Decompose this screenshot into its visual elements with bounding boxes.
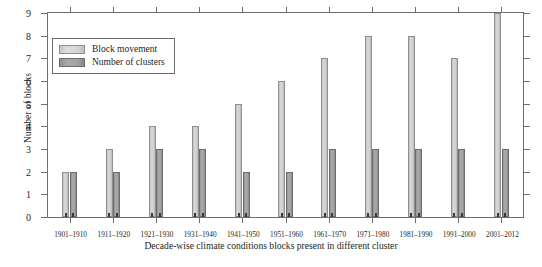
- bar: [286, 172, 293, 217]
- y-axis-tick-right: [523, 194, 530, 195]
- x-axis-tick: 1911–1920: [113, 217, 114, 223]
- bar-base-marker: [159, 213, 161, 217]
- bar: [502, 149, 509, 217]
- y-axis-tick-right: [523, 13, 530, 14]
- y-axis-tick-label: 8: [26, 32, 31, 42]
- x-axis-tick-top: [372, 7, 373, 13]
- bar-base-marker: [410, 213, 412, 217]
- y-axis-tick-right: [523, 172, 530, 173]
- bar-base-marker: [331, 213, 333, 217]
- bar: [321, 58, 328, 217]
- y-axis-tick-right: [523, 58, 530, 59]
- x-axis-tick-top: [199, 7, 200, 13]
- y-axis-tick-label: 3: [26, 145, 31, 155]
- bar-base-marker: [202, 213, 204, 217]
- y-axis-tick: 2: [41, 172, 48, 173]
- y-axis-tick: 3: [41, 149, 48, 150]
- y-axis-tick-label: 2: [26, 168, 31, 178]
- y-axis-tick-right: [523, 104, 530, 105]
- bar-base-marker: [238, 213, 240, 217]
- x-axis-tick-top: [70, 7, 71, 13]
- bar: [458, 149, 465, 217]
- x-axis-tick-label: 1911–1920: [97, 231, 130, 238]
- x-axis-tick-top: [501, 7, 502, 13]
- x-axis-tick-top: [458, 7, 459, 13]
- legend-swatch-block-movement: [59, 45, 85, 54]
- y-axis-tick-label: 6: [26, 77, 31, 87]
- x-axis-tick: 1961–1970: [329, 217, 330, 223]
- legend-item-number-of-clusters: Number of clusters: [59, 56, 165, 69]
- y-axis-tick-right: [523, 149, 530, 150]
- y-axis-tick: 4: [41, 126, 48, 127]
- x-axis-tick-label: 1931–1940: [184, 231, 217, 238]
- bar-base-marker: [245, 213, 247, 217]
- x-axis-tick-top: [286, 7, 287, 13]
- x-axis-tick-label: 1921–1930: [141, 231, 174, 238]
- bar: [494, 13, 501, 217]
- x-axis-tick-top: [415, 7, 416, 13]
- bar: [278, 81, 285, 217]
- legend-label-block-movement: Block movement: [92, 45, 157, 55]
- y-axis-tick: 5: [41, 104, 48, 105]
- x-axis-title: Decade-wise climate conditions blocks pr…: [0, 240, 542, 251]
- x-axis-tick-label: 1901–1910: [54, 231, 87, 238]
- legend-swatch-number-of-clusters: [59, 58, 85, 67]
- y-axis-tick: 0: [41, 217, 48, 218]
- y-axis-tick-right: [523, 126, 530, 127]
- y-axis-tick: 7: [41, 58, 48, 59]
- bar: [70, 172, 77, 217]
- x-axis-tick-top: [113, 7, 114, 13]
- bar-base-marker: [497, 213, 499, 217]
- bar: [106, 149, 113, 217]
- bar: [365, 36, 372, 217]
- bar-chart-figure: Number of blocks 01234567891901–19101911…: [0, 0, 542, 267]
- y-axis-tick: 1: [41, 194, 48, 195]
- x-axis-tick-label: 1991–2000: [443, 231, 476, 238]
- y-axis-tick-label: 7: [26, 54, 31, 64]
- x-axis-tick: 1901–1910: [70, 217, 71, 223]
- x-axis-tick-label: 1961–1970: [313, 231, 346, 238]
- x-axis-tick-label: 2001–2012: [486, 231, 519, 238]
- x-axis-tick: 1921–1930: [156, 217, 157, 223]
- bar-base-marker: [375, 213, 377, 217]
- bar-base-marker: [367, 213, 369, 217]
- x-axis-tick-label: 1951–1960: [270, 231, 303, 238]
- bar: [192, 126, 199, 217]
- bar-base-marker: [108, 213, 110, 217]
- bar-base-marker: [194, 213, 196, 217]
- bar-base-marker: [461, 213, 463, 217]
- bar-base-marker: [72, 213, 74, 217]
- bar: [149, 126, 156, 217]
- legend-label-number-of-clusters: Number of clusters: [92, 58, 165, 68]
- x-axis-tick: 2001–2012: [501, 217, 502, 223]
- y-axis-tick-right: [523, 36, 530, 37]
- x-axis-tick-label: 1981–1990: [400, 231, 433, 238]
- x-axis-tick: 1981–1990: [415, 217, 416, 223]
- bar-base-marker: [504, 213, 506, 217]
- bar: [62, 172, 69, 217]
- bar: [372, 149, 379, 217]
- bar: [113, 172, 120, 217]
- y-axis-tick-right: [523, 81, 530, 82]
- bar-base-marker: [324, 213, 326, 217]
- y-axis-tick: 6: [41, 81, 48, 82]
- y-axis-tick-label: 4: [26, 122, 31, 132]
- y-axis-tick-label: 5: [26, 100, 31, 110]
- bar-base-marker: [65, 213, 67, 217]
- bar: [235, 104, 242, 217]
- bar-base-marker: [151, 213, 153, 217]
- bar-base-marker: [453, 213, 455, 217]
- bar: [451, 58, 458, 217]
- y-axis-tick-label: 1: [26, 190, 31, 200]
- bar: [199, 149, 206, 217]
- bar-base-marker: [288, 213, 290, 217]
- chart-legend: Block movement Number of clusters: [52, 38, 175, 74]
- x-axis-tick: 1971–1980: [372, 217, 373, 223]
- bar-base-marker: [281, 213, 283, 217]
- bar: [243, 172, 250, 217]
- legend-item-block-movement: Block movement: [59, 43, 165, 56]
- x-axis-tick-top: [329, 7, 330, 13]
- y-axis-tick: 8: [41, 36, 48, 37]
- x-axis-tick-label: 1941–1950: [227, 231, 260, 238]
- bar-base-marker: [418, 213, 420, 217]
